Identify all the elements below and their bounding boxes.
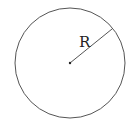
radius-label: R [79, 33, 91, 51]
circle-diagram: R [0, 0, 129, 120]
center-point [69, 62, 71, 64]
radius-line [70, 29, 112, 63]
